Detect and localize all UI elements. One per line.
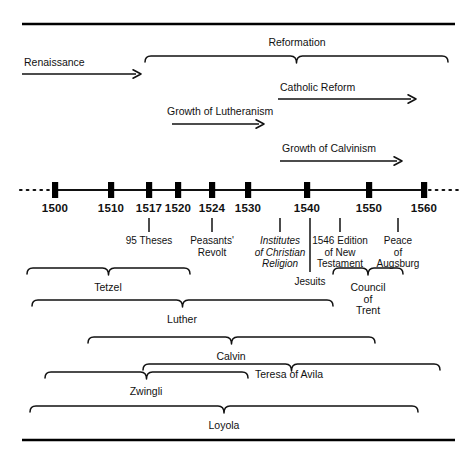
- axis-tick-1560: [421, 182, 427, 198]
- axis-tick-label-1520: 1520: [165, 202, 191, 214]
- person-label-council-of-trent: CouncilofTrent: [350, 281, 385, 316]
- axis-tick-label-1500: 1500: [42, 202, 68, 214]
- person-label-line: of: [364, 293, 373, 305]
- event-label-line: of New: [324, 247, 356, 258]
- event-label-line: Peasants': [190, 235, 234, 246]
- horizontal-rules: [22, 24, 455, 440]
- axis-tick-1500: [52, 182, 58, 198]
- era-arrow-catholic-reform: [278, 95, 416, 103]
- era-arrow-growth-of-lutheranism: [172, 120, 264, 128]
- event-label-95-theses: 95 Theses: [126, 235, 173, 246]
- event-label-1546-edition-of-new-testament: 1546 Editionof NewTestament: [312, 235, 368, 269]
- person-brace-zwingli: [45, 372, 248, 379]
- axis-tick-label-1560: 1560: [411, 202, 437, 214]
- era-label-growth-of-lutheranism: Growth of Lutheranism: [167, 105, 273, 117]
- era-brace-reformation: [145, 56, 448, 63]
- person-brace-calvin: [88, 337, 375, 344]
- event-label-peasants-revolt: Peasants'Revolt: [190, 235, 234, 258]
- event-label-line: Jesuits: [294, 276, 325, 287]
- axis-tick-1530: [245, 182, 251, 198]
- event-label-line: Peace: [384, 235, 413, 246]
- axis-tick-1540: [304, 182, 310, 198]
- axis-tick-1510: [108, 182, 114, 198]
- event-label-line: of Christian: [255, 247, 306, 258]
- axis-tick-label-1510: 1510: [98, 202, 124, 214]
- person-label-line: Council: [350, 281, 385, 293]
- event-label-line: Institutes: [260, 235, 300, 246]
- person-brace-council-of-trent: [333, 268, 403, 275]
- axis-tick-label-1550: 1550: [356, 202, 382, 214]
- event-label-line: Revolt: [198, 247, 227, 258]
- person-span-group: TetzelCouncilofTrentLutherCalvinTeresa o…: [27, 268, 440, 431]
- event-label-institutes-of-christian-religion: Institutesof ChristianReligion: [255, 235, 306, 269]
- era-arrow-renaissance: [22, 70, 141, 78]
- person-brace-tetzel: [27, 268, 190, 275]
- timeline-axis-group: 150015101517152015241530154015501560: [20, 182, 458, 214]
- axis-tick-1524: [209, 182, 215, 198]
- person-label-tetzel: Tetzel: [94, 281, 121, 293]
- axis-tick-label-1540: 1540: [294, 202, 320, 214]
- era-band-group: RenaissanceReformationCatholic ReformGro…: [22, 36, 448, 165]
- event-label-line: Religion: [262, 258, 299, 269]
- era-label-growth-of-calvinism: Growth of Calvinism: [282, 142, 376, 154]
- axis-tick-1520: [175, 182, 181, 198]
- era-label-renaissance: Renaissance: [24, 56, 85, 68]
- axis-tick-label-1517: 1517: [136, 202, 162, 214]
- person-label-zwingli: Zwingli: [130, 385, 163, 397]
- person-label-line: Trent: [356, 304, 380, 316]
- axis-tick-label-1524: 1524: [199, 202, 226, 214]
- person-brace-loyola: [30, 406, 418, 413]
- person-label-calvin: Calvin: [216, 350, 245, 362]
- event-label-line: of: [394, 247, 403, 258]
- timeline-figure: RenaissanceReformationCatholic ReformGro…: [0, 0, 476, 458]
- person-label-teresa-of-avila: Teresa of Avila: [255, 368, 323, 380]
- axis-tick-1550: [366, 182, 372, 198]
- era-arrow-growth-of-calvinism: [280, 157, 402, 165]
- event-label-line: 1546 Edition: [312, 235, 368, 246]
- era-label-catholic-reform: Catholic Reform: [280, 81, 356, 93]
- axis-tick-1517: [146, 182, 152, 198]
- event-label-peace-of-augsburg: PeaceofAugsburg: [377, 235, 420, 269]
- event-label-line: 95 Theses: [126, 235, 173, 246]
- person-label-luther: Luther: [167, 313, 197, 325]
- timeline-canvas: RenaissanceReformationCatholic ReformGro…: [0, 0, 476, 458]
- axis-tick-label-1530: 1530: [235, 202, 261, 214]
- person-label-loyola: Loyola: [209, 419, 240, 431]
- era-label-reformation: Reformation: [268, 36, 325, 48]
- person-brace-luther: [32, 300, 333, 307]
- event-label-jesuits: Jesuits: [294, 276, 325, 287]
- event-label-group: 95 ThesesPeasants'RevoltInstitutesof Chr…: [126, 218, 420, 287]
